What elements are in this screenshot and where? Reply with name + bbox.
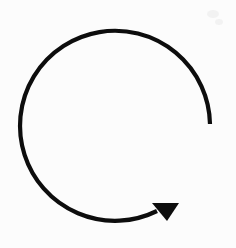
- scan-speck-upper: [207, 10, 219, 18]
- paper-background: [0, 0, 236, 248]
- circular-arrow-figure: Circular Arrow A thick black near-comple…: [0, 0, 236, 248]
- image-canvas: Circular Arrow A thick black near-comple…: [0, 0, 236, 248]
- scan-speck-lower: [215, 19, 223, 25]
